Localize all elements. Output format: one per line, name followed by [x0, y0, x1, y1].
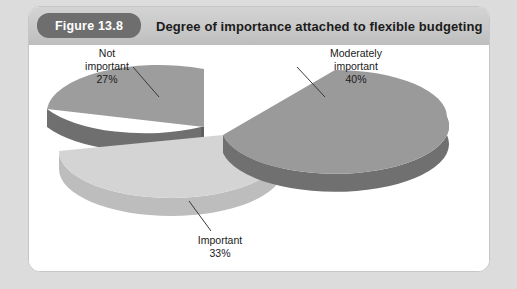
page-background: Figure 13.8 Degree of importance attache… [0, 0, 517, 289]
pie-slice-moderately-important[interactable] [223, 70, 449, 192]
pie-label-important-line1: Important [198, 234, 242, 246]
figure-number-label: Figure 13.8 [55, 19, 123, 33]
pie-slice-not-important[interactable] [47, 65, 204, 151]
pie-label-not-important-line2: important [85, 60, 129, 72]
pie-label-important-value: 33% [209, 247, 230, 259]
pie-slice-moderately-important-top [223, 70, 449, 174]
pie-label-not-important-value: 27% [96, 73, 117, 85]
pie-label-important: Important 33% [198, 234, 242, 259]
figure-title: Degree of importance attached to flexibl… [156, 7, 483, 45]
chart-area: Not important 27% Moderately important 4… [29, 45, 490, 272]
figure-number-pill: Figure 13.8 [37, 13, 141, 38]
figure-card: Figure 13.8 Degree of importance attache… [28, 6, 490, 272]
pie-label-moderately-important-line1: Moderately [330, 47, 383, 59]
pie-label-not-important-line1: Not [99, 47, 115, 59]
pie-label-moderately-important-line2: important [334, 60, 378, 72]
figure-header-band: Figure 13.8 Degree of importance attache… [29, 7, 490, 45]
pie-label-moderately-important-value: 40% [345, 73, 366, 85]
pie-slice-not-important-top [47, 65, 204, 127]
pie-chart-svg: Not important 27% Moderately important 4… [29, 45, 490, 272]
